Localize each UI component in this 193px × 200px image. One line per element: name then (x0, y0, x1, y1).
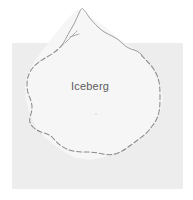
paper-speck-2 (40, 133, 41, 134)
iceberg-figure: Iceberg (0, 0, 193, 200)
iceberg-label: Iceberg (71, 80, 109, 93)
iceberg-figure-canvas (0, 0, 193, 200)
paper-speck (95, 113, 97, 115)
